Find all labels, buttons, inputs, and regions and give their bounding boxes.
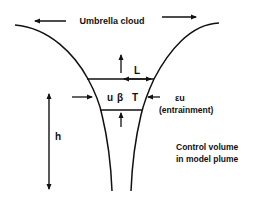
temperature-label: T: [132, 92, 138, 103]
entrainment-symbol: εu: [175, 93, 185, 103]
umbrella-cloud-label: Umbrella cloud: [79, 16, 144, 26]
plume-diagram: Umbrella cloud L u β T εu (entrainment) …: [0, 0, 253, 200]
beta-label: β: [117, 92, 123, 103]
entrainment-text: (entrainment): [159, 105, 213, 115]
left-plume-boundary: [15, 25, 112, 191]
length-label: L: [134, 65, 140, 76]
height-label: h: [55, 131, 61, 142]
velocity-label: u: [107, 92, 113, 103]
control-volume-caption-line2: in model plume: [176, 154, 239, 164]
control-volume-caption-line1: Control volume: [176, 142, 239, 152]
